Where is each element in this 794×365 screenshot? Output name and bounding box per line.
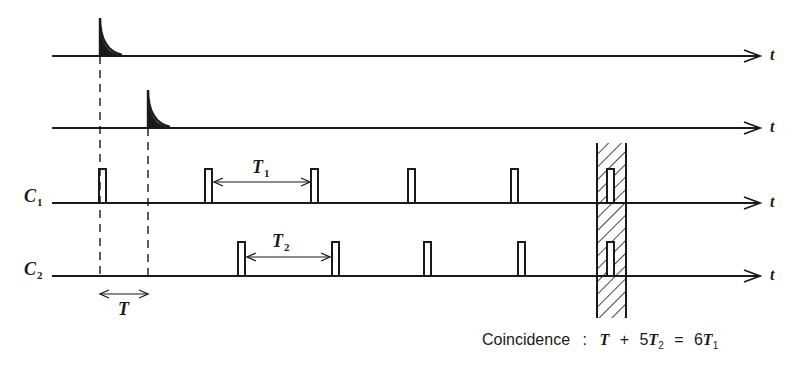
caption-plus: + <box>620 331 629 348</box>
caption-term-T: T <box>599 331 609 348</box>
caption-separator: : <box>583 331 587 348</box>
interval-label-T1: T1 <box>252 158 270 179</box>
decay-pulse-fill <box>100 26 120 56</box>
interval-label-T: T <box>118 300 129 318</box>
rect-pulse <box>311 169 318 203</box>
decay-pulse-fill <box>148 98 168 128</box>
axis-t-label: t <box>770 46 774 64</box>
rect-pulse <box>205 169 212 203</box>
axis-t-label: t <box>770 193 774 211</box>
caption-word: Coincidence <box>482 331 570 348</box>
caption-sub-1: 1 <box>713 340 719 351</box>
rect-pulse <box>518 242 525 276</box>
caption-term-T1: T <box>703 331 713 348</box>
coincidence-caption: Coincidence : T + 5T2 = 6T1 <box>482 331 718 351</box>
caption-equals: = <box>674 331 683 348</box>
rect-pulse <box>332 242 339 276</box>
axis-t-label: t <box>770 266 774 284</box>
axis-t-label: t <box>770 118 774 136</box>
rect-pulse <box>238 242 245 276</box>
rect-pulse <box>424 242 431 276</box>
interval-label-T2: T2 <box>272 232 290 253</box>
dashed-guides <box>100 56 148 280</box>
time-axes <box>52 50 760 282</box>
caption-coef-6: 6 <box>694 331 703 348</box>
caption-term-T2: T <box>648 331 658 348</box>
rect-pulse <box>607 169 614 203</box>
interval-arrows <box>100 178 330 298</box>
rect-pulse <box>408 169 415 203</box>
rect-pulse <box>511 169 518 203</box>
row-label-C2: C2 <box>24 260 43 281</box>
row-label-C1: C1 <box>24 187 43 208</box>
rect-pulse <box>607 242 614 276</box>
caption-sub-2: 2 <box>658 340 664 351</box>
